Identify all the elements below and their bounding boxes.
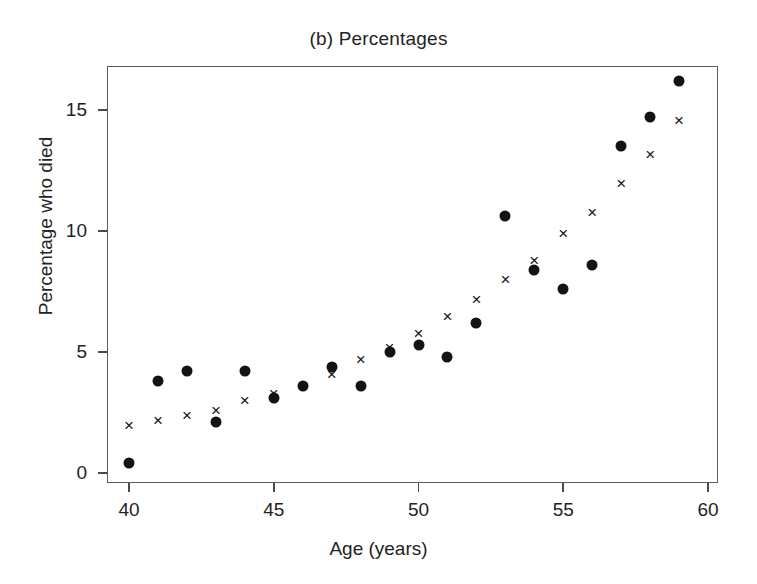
y-axis-label: Percentage who died: [35, 76, 57, 376]
data-point-fitted-57: ×: [614, 175, 629, 190]
x-tick-label-45: 45: [263, 499, 284, 521]
data-point-fitted-47: ×: [324, 366, 339, 381]
plot-area: 4045505560051015××××××××××××××××××××: [107, 66, 718, 483]
data-point-fitted-51: ×: [440, 308, 455, 323]
chart-title: (b) Percentages: [0, 28, 757, 50]
y-tick-0: [98, 472, 107, 474]
scatter-plot-figure: (b) Percentages 4045505560051015××××××××…: [0, 0, 757, 584]
y-tick-10: [98, 230, 107, 232]
x-tick-40: [128, 483, 130, 492]
data-point-fitted-40: ×: [122, 417, 137, 432]
data-point-fitted-41: ×: [150, 412, 165, 427]
data-point-observed-51: [442, 351, 453, 362]
data-point-observed-57: [616, 141, 627, 152]
data-point-fitted-48: ×: [353, 352, 368, 367]
data-point-observed-42: [181, 366, 192, 377]
x-tick-label-60: 60: [697, 499, 718, 521]
x-tick-label-55: 55: [553, 499, 574, 521]
y-tick-15: [98, 109, 107, 111]
data-point-fitted-58: ×: [643, 146, 658, 161]
data-point-observed-53: [500, 211, 511, 222]
data-point-observed-55: [558, 284, 569, 295]
data-point-fitted-45: ×: [266, 386, 281, 401]
data-point-observed-59: [674, 75, 685, 86]
data-point-observed-56: [587, 259, 598, 270]
data-point-observed-52: [471, 317, 482, 328]
x-axis-label: Age (years): [0, 538, 757, 560]
data-point-fitted-44: ×: [237, 393, 252, 408]
x-tick-45: [273, 483, 275, 492]
data-point-fitted-42: ×: [179, 407, 194, 422]
data-point-fitted-54: ×: [527, 253, 542, 268]
data-point-fitted-59: ×: [672, 112, 687, 127]
data-point-fitted-55: ×: [556, 226, 571, 241]
data-point-fitted-50: ×: [411, 325, 426, 340]
data-point-observed-48: [355, 380, 366, 391]
data-point-fitted-56: ×: [585, 204, 600, 219]
data-point-fitted-43: ×: [208, 403, 223, 418]
x-tick-label-50: 50: [408, 499, 429, 521]
data-point-observed-58: [645, 112, 656, 123]
data-point-fitted-49: ×: [382, 340, 397, 355]
data-point-fitted-46: ×: [295, 378, 310, 393]
x-tick-55: [562, 483, 564, 492]
data-point-observed-41: [152, 376, 163, 387]
x-tick-label-40: 40: [118, 499, 139, 521]
data-point-observed-44: [239, 366, 250, 377]
y-tick-5: [98, 351, 107, 353]
x-tick-60: [707, 483, 709, 492]
data-point-observed-40: [124, 458, 135, 469]
x-tick-50: [418, 483, 420, 492]
data-point-fitted-53: ×: [498, 272, 513, 287]
y-tick-label-0: 0: [41, 462, 87, 484]
data-point-fitted-52: ×: [469, 291, 484, 306]
